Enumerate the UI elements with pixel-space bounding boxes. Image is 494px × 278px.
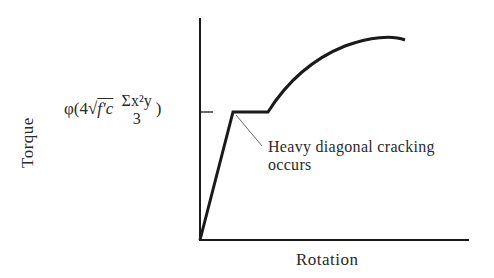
y-axis-label: Torque — [18, 108, 38, 168]
annotation-leader-line — [236, 115, 262, 146]
formula-suffix: ) — [156, 99, 162, 118]
annotation-line-1: Heavy diagonal cracking — [268, 138, 435, 156]
fraction-denominator: 3 — [122, 110, 152, 128]
x-axis-label: Rotation — [296, 250, 359, 270]
formula-sqrt-term: f′c — [97, 99, 113, 118]
cracking-torque-formula: φ(4√f′c Σx²y 3 ) — [64, 92, 161, 128]
formula-prefix: φ(4 — [64, 99, 88, 118]
annotation-line-2: occurs — [268, 156, 435, 174]
sqrt-symbol: √ — [88, 99, 97, 119]
cracking-annotation: Heavy diagonal cracking occurs — [268, 138, 435, 174]
formula-fraction: Σx²y 3 — [122, 92, 152, 128]
fraction-numerator: Σx²y — [122, 92, 152, 110]
